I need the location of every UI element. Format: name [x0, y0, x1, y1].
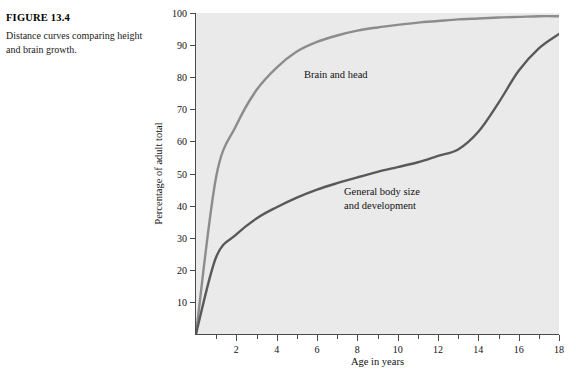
x-tick-label: 12: [433, 344, 443, 355]
y-tick-label: 60: [177, 136, 187, 147]
curves-layer: [196, 13, 559, 334]
brain-and-head-curve: [196, 16, 559, 334]
x-tick-major: [398, 335, 399, 341]
y-tick-label: 90: [177, 40, 187, 51]
y-tick-label: 20: [177, 264, 187, 275]
general-body-size-label: General body size and development: [344, 185, 420, 213]
x-tick-label: 6: [315, 344, 320, 355]
y-tick-label: 70: [177, 104, 187, 115]
x-tick-minor: [499, 335, 500, 339]
general-body-size-curve: [196, 34, 559, 334]
x-tick-label: 16: [514, 344, 524, 355]
x-tick-minor: [257, 335, 258, 339]
x-tick-minor: [539, 335, 540, 339]
y-tick: [190, 13, 195, 14]
y-tick-label: 80: [177, 72, 187, 83]
x-tick-label: 18: [554, 344, 564, 355]
figure-description: Distance curves comparing height and bra…: [6, 29, 146, 58]
x-tick-major: [559, 335, 560, 341]
y-tick: [190, 238, 195, 239]
y-axis-title: Percentage of adult total: [151, 13, 165, 334]
y-tick: [190, 109, 195, 110]
x-tick-minor: [216, 335, 217, 339]
x-tick-label: 8: [355, 344, 360, 355]
y-axis-line: [195, 13, 196, 334]
y-tick: [190, 45, 195, 46]
x-tick-label: 10: [393, 344, 403, 355]
y-tick: [190, 206, 195, 207]
x-axis-title: Age in years: [196, 356, 559, 367]
brain-and-head-label: Brain and head: [304, 68, 368, 82]
x-tick-label: 4: [274, 344, 279, 355]
y-tick: [190, 141, 195, 142]
figure-number: FIGURE 13.4: [6, 12, 146, 25]
x-tick-minor: [297, 335, 298, 339]
y-tick: [190, 270, 195, 271]
x-tick-label: 2: [234, 344, 239, 355]
chart-plot-area: 102030405060708090100 24681012141618 Bra…: [196, 13, 559, 334]
figure-caption: FIGURE 13.4 Distance curves comparing he…: [6, 12, 146, 58]
x-tick-label: 14: [473, 344, 483, 355]
y-tick-label: 40: [177, 200, 187, 211]
x-tick-major: [438, 335, 439, 341]
x-tick-minor: [418, 335, 419, 339]
y-tick-label: 30: [177, 232, 187, 243]
y-axis-title-text: Percentage of adult total: [153, 122, 164, 224]
x-tick-major: [357, 335, 358, 341]
y-tick: [190, 174, 195, 175]
x-tick-major: [478, 335, 479, 341]
y-tick-label: 10: [177, 296, 187, 307]
x-tick-minor: [337, 335, 338, 339]
y-tick-label: 50: [177, 168, 187, 179]
x-tick-major: [236, 335, 237, 341]
x-tick-minor: [378, 335, 379, 339]
x-tick-major: [317, 335, 318, 341]
y-tick-label: 100: [172, 8, 187, 19]
x-tick-major: [519, 335, 520, 341]
x-tick-minor: [458, 335, 459, 339]
x-tick-major: [277, 335, 278, 341]
y-tick: [190, 77, 195, 78]
y-tick: [190, 302, 195, 303]
